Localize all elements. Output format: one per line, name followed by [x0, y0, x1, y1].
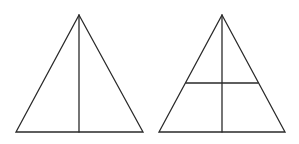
left-triangle-figure: [16, 15, 143, 132]
triangles-diagram: [0, 0, 299, 144]
diagram-canvas: [0, 0, 299, 144]
right-triangle-figure: [159, 15, 285, 132]
